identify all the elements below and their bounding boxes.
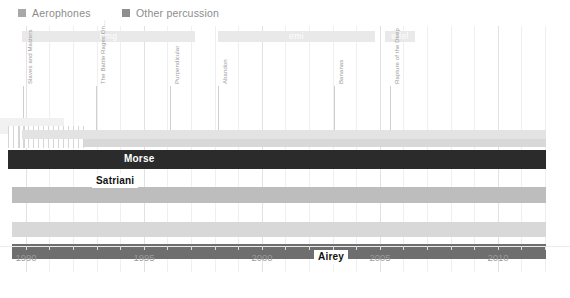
x-tick: [73, 246, 74, 250]
legend-swatch-icon: [122, 9, 130, 17]
x-tick: [451, 246, 452, 250]
x-tick: [191, 246, 192, 250]
x-tick: [427, 246, 428, 250]
x-tick-label: 1995: [133, 252, 154, 263]
album-title-label: Purpendicular: [174, 46, 180, 84]
x-tick: [285, 246, 286, 250]
x-tick: [49, 246, 50, 250]
x-tick-label: 2005: [369, 252, 390, 263]
legend-label: Aerophones: [32, 7, 91, 19]
album-title-label: Bananas: [338, 60, 344, 84]
x-tick: [144, 246, 145, 250]
member-chip-morse[interactable]: Morse: [120, 152, 158, 166]
member-chip-satriani[interactable]: Satriani: [92, 174, 138, 188]
x-tick: [333, 246, 334, 250]
timeline-bar-row-pale-top[interactable]: [22, 130, 546, 139]
x-tick: [238, 246, 239, 250]
label-band-text: emi: [289, 31, 304, 42]
label-band-emi[interactable]: emi: [218, 31, 375, 42]
x-tick: [498, 246, 499, 250]
x-tick: [167, 246, 168, 250]
x-tick: [545, 246, 546, 250]
annotation-leader-line: [170, 86, 171, 134]
legend-item-0[interactable]: Aerophones: [18, 7, 91, 19]
x-tick: [380, 246, 381, 250]
timeline-bar-row-gray-1[interactable]: [84, 139, 546, 147]
annotation-leader-line: [334, 86, 335, 134]
timeline-bar-row-gray-2[interactable]: [12, 187, 546, 203]
x-tick-label: 1990: [15, 252, 36, 263]
x-tick: [262, 246, 263, 250]
label-band-edel[interactable]: edel: [385, 31, 415, 42]
legend: AerophonesOther percussion: [0, 0, 570, 26]
x-tick-label: 2000: [251, 252, 272, 263]
annotation-leader-line: [218, 86, 219, 134]
album-title-label: Slaves and Masters: [27, 30, 33, 85]
x-tick: [309, 246, 310, 250]
x-tick-label: 2010: [487, 252, 508, 263]
x-tick: [120, 246, 121, 250]
x-tick: [26, 246, 27, 250]
album-title-label: Rapture of the Deep: [394, 28, 400, 84]
timeline-bar-row-dark-1[interactable]: [8, 150, 546, 169]
x-tick: [215, 246, 216, 250]
legend-item-1[interactable]: Other percussion: [122, 7, 219, 19]
legend-label: Other percussion: [136, 7, 219, 19]
timeline-bar-row-gray-3[interactable]: [12, 222, 546, 237]
x-axis: 19901995200020052010: [0, 246, 570, 272]
x-tick: [356, 246, 357, 250]
album-title-label: Abandon: [222, 59, 228, 84]
legend-swatch-icon: [18, 9, 26, 17]
annotation-leader-line: [96, 86, 97, 134]
x-tick: [97, 246, 98, 250]
annotation-leader-line: [390, 86, 391, 134]
x-tick: [403, 246, 404, 250]
album-title-label: The Battle Rages On…: [100, 20, 106, 84]
x-tick: [521, 246, 522, 250]
x-tick: [474, 246, 475, 250]
label-band-bmg[interactable]: bmg: [22, 31, 195, 42]
